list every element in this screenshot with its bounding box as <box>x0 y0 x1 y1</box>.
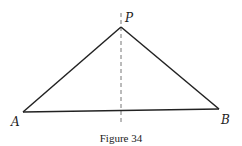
vertex-label-b: B <box>220 113 230 127</box>
side-pb <box>121 27 219 109</box>
vertex-label-a: A <box>10 115 20 129</box>
triangle-figure: P A B Figure 34 <box>0 0 242 146</box>
vertex-label-p: P <box>124 11 134 25</box>
figure-caption: Figure 34 <box>100 132 143 144</box>
side-ap <box>23 27 121 112</box>
